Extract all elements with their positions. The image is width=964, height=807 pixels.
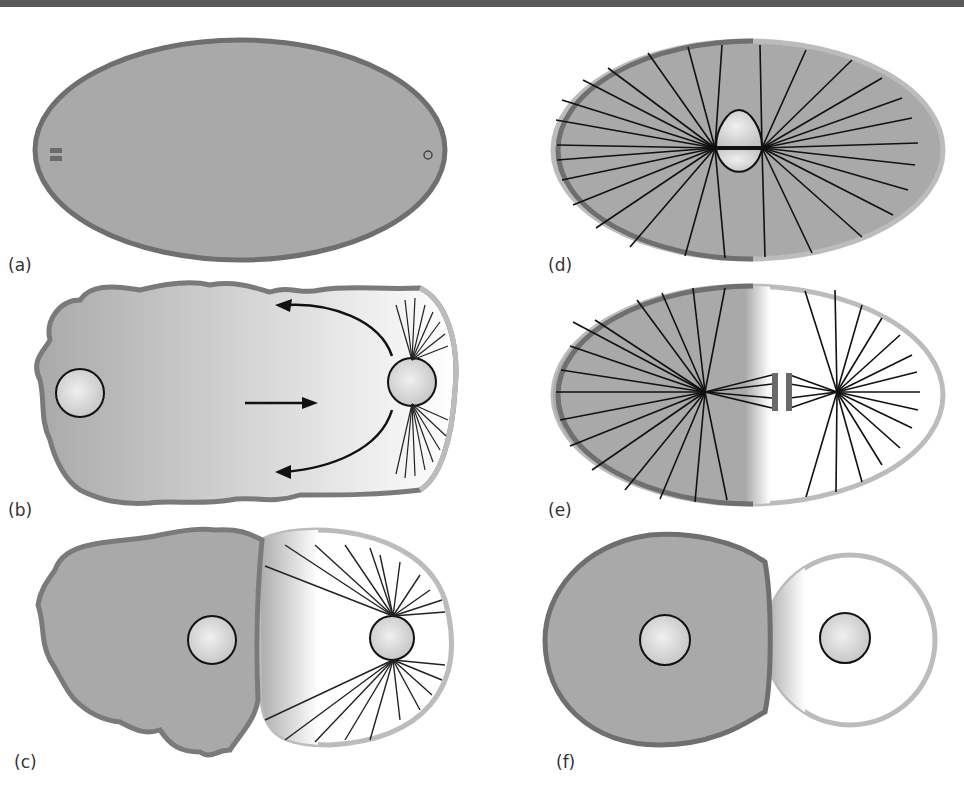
panel-label-e: (e) <box>548 500 572 520</box>
spindle-pole-bar-icon <box>772 373 778 411</box>
spindle-pole-bar-icon <box>786 373 792 411</box>
nucleus-icon <box>188 616 236 664</box>
panel-d <box>553 41 943 259</box>
nucleus-icon <box>820 613 870 663</box>
nucleus-icon <box>640 615 690 665</box>
panel-b <box>37 283 456 505</box>
panel-label-f: (f) <box>556 752 575 772</box>
panel-label-a: (a) <box>8 255 32 275</box>
pole-marker-bars-icon <box>50 148 62 153</box>
panel-e <box>550 280 943 510</box>
panel-f <box>545 534 935 745</box>
diagram-canvas <box>0 0 964 807</box>
panel-label-c: (c) <box>14 752 37 772</box>
nucleus-icon <box>56 369 104 417</box>
panel-a <box>35 40 445 260</box>
nucleus-icon <box>370 616 414 660</box>
nucleus-icon <box>388 358 436 406</box>
panel-label-d: (d) <box>548 255 572 275</box>
panel-c <box>38 529 451 755</box>
panel-label-b: (b) <box>8 500 32 520</box>
